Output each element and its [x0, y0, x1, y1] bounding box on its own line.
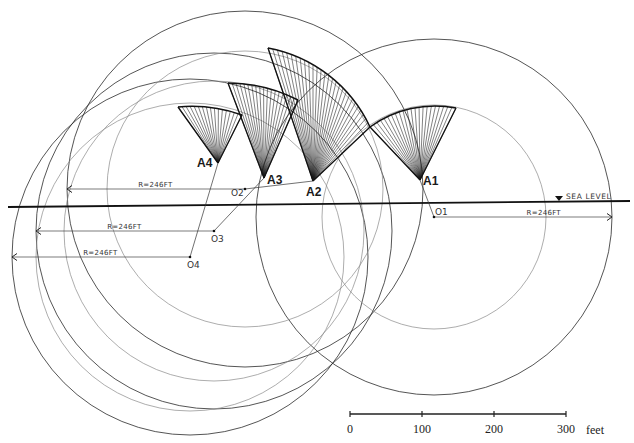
shell-fan-a4: [178, 106, 242, 163]
radius-label-o2: R=246FT: [138, 181, 173, 189]
radius-label-o1: R=246FT: [527, 209, 562, 217]
center-label-o2: O2: [231, 188, 244, 198]
scale-unit-label: feet: [586, 423, 605, 437]
center-label-o4: O4: [187, 260, 200, 270]
shell-label-a1: A1: [423, 174, 439, 188]
scale-bar: 0100200300: [347, 411, 575, 436]
shell-label-a4: A4: [197, 156, 213, 170]
outer-sphere-circles: [12, 11, 612, 435]
sea-level-label: SEA LEVEL: [566, 192, 612, 201]
shell-fans: [178, 48, 456, 181]
scale-tick-label: 200: [485, 422, 503, 436]
sea-level-marker-icon: [555, 196, 563, 201]
shell-label-a3: A3: [267, 173, 283, 187]
shell-label-a2: A2: [306, 185, 322, 199]
center-label-o3: O3: [211, 234, 224, 244]
sea-level-line: [8, 201, 630, 207]
center-label-o1: O1: [435, 207, 448, 217]
center-point-o4: [189, 256, 192, 259]
radius-label-o3: R=246FT: [107, 223, 142, 231]
scale-tick-label: 300: [557, 422, 575, 436]
shell-geometry-diagram: R=246FTR=246FTR=246FTR=246FT O1O2O3O4A1A…: [0, 0, 634, 443]
shell-fan-a2: [268, 48, 370, 181]
scale-tick-label: 0: [347, 422, 353, 436]
center-point-o3: [213, 230, 216, 233]
scale-tick-label: 100: [413, 422, 431, 436]
center-point-o2: [244, 188, 247, 191]
radius-label-o4: R=246FT: [83, 249, 118, 257]
